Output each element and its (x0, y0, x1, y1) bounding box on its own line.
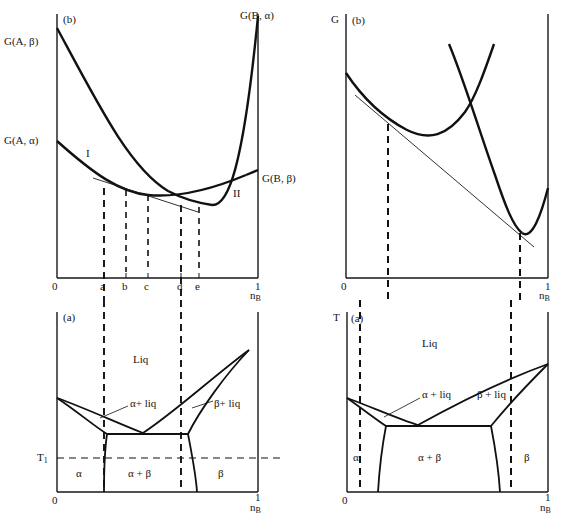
region-label-beta-liq: β + liq (477, 389, 506, 400)
gibbs-curve-I-end (246, 170, 258, 175)
top-left-gibbs-svg (0, 0, 289, 300)
y-axis-title-T: T (333, 312, 340, 323)
tick-label-c: c (144, 281, 149, 292)
region-label-liquid: Liq (422, 338, 437, 349)
region-label-alpha: α (76, 468, 82, 479)
gibbs-curve-II-right (212, 16, 258, 205)
gibbs-curve-solid (346, 44, 494, 136)
label-g-b-alpha: G(B, α) (240, 10, 274, 21)
alpha-solvus (378, 426, 386, 492)
tick-label-0: 0 (52, 495, 58, 506)
label-curve-I: I (86, 148, 90, 159)
panel-marker-a-left: (a) (63, 312, 75, 323)
region-label-beta: β (524, 452, 530, 463)
temperature-label-T1: T1 (37, 452, 48, 465)
label-curve-II: II (233, 188, 240, 199)
x-axis-title: nB (540, 502, 551, 515)
bottom-left-phase-svg (0, 300, 289, 525)
tick-label-0: 0 (342, 495, 348, 506)
bottom-right-phase-panel: T (a) Liq α + liq β + liq α α + β β 0 1 … (289, 300, 578, 525)
x-axis-title: nB (250, 502, 261, 515)
gibbs-curve-liquid-right (522, 188, 548, 234)
leader-beta-liq (192, 401, 213, 408)
leader-alpha-liq (384, 398, 420, 417)
region-label-alpha: α (353, 452, 359, 463)
bottom-left-phase-panel: (a) Liq α+ liq β+ liq α α + β β T1 0 1 n… (0, 300, 289, 525)
bottom-right-phase-svg (289, 300, 578, 525)
gibbs-curve-II-left (57, 28, 212, 205)
region-label-beta-liq: β+ liq (214, 398, 240, 409)
top-right-gibbs-panel: G (b) 0 1 nB (289, 0, 578, 300)
region-label-alpha-beta: α + β (128, 468, 151, 479)
panel-marker-a-right: (a) (351, 313, 363, 324)
alpha-liquidus (347, 398, 418, 425)
tick-label-0: 0 (341, 281, 347, 292)
region-label-liquid: Liq (133, 354, 148, 365)
region-label-beta: β (218, 468, 224, 479)
alpha-solidus (57, 398, 107, 434)
panel-marker-b-left: (b) (63, 14, 76, 25)
region-label-alpha-liq: α + liq (422, 389, 451, 400)
gibbs-curve-liquid-left (449, 44, 522, 233)
label-g-a-alpha: G(A, α) (4, 135, 38, 146)
label-g-a-beta: G(A, β) (4, 36, 38, 47)
tick-label-d: d (177, 281, 183, 292)
top-right-gibbs-svg (289, 0, 578, 300)
beta-solvus (491, 426, 500, 492)
region-label-alpha-liq: α+ liq (130, 398, 156, 409)
tick-label-0: 0 (52, 281, 58, 292)
panel-marker-b-right: (b) (352, 15, 365, 26)
y-axis-title-G: G (331, 14, 339, 25)
tick-label-b: b (122, 281, 128, 292)
beta-solvus (188, 434, 197, 492)
common-tangent-line (355, 95, 534, 247)
tick-label-e: e (195, 281, 200, 292)
alpha-solidus (347, 398, 386, 426)
tick-label-a: a (100, 281, 105, 292)
region-label-alpha-beta: α + β (418, 452, 441, 463)
top-left-gibbs-panel: (b) G(A, β) G(A, α) G(B, α) G(B, β) I II… (0, 0, 289, 300)
